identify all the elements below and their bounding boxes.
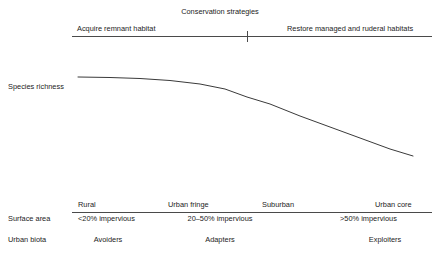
column-header-urban-fringe: Urban fringe [168,201,209,208]
cell-biota-exploiters: Exploiters [330,236,440,243]
column-header-rural: Rural [78,201,96,208]
column-header-urban-core: Urban core [375,201,412,208]
cell-surface-urban-core: >50% impervious [340,215,397,222]
table-header-rule [72,212,432,213]
column-header-suburban: Suburban [262,201,294,208]
urbanization-gradient-figure: Conservation strategies Acquire remnant … [0,0,440,253]
